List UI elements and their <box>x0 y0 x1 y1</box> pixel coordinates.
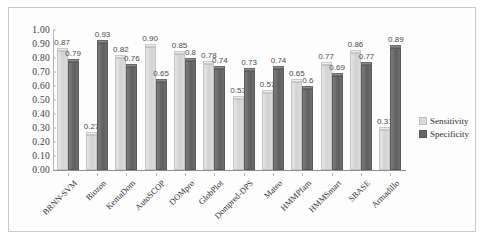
x-axis-tick-label: Armadillo <box>370 178 402 210</box>
bar-specificity[interactable]: 0.89 <box>390 45 401 170</box>
bar-specificity[interactable]: 0.74 <box>273 66 284 170</box>
bar-sensitivity[interactable]: 0.53 <box>233 96 244 170</box>
bar-sensitivity[interactable]: 0.82 <box>115 55 126 170</box>
bar-value-label: 0.8 <box>185 48 196 57</box>
bar-group: 0.310.89 <box>379 30 401 170</box>
bar-sensitivity[interactable]: 0.78 <box>203 61 214 170</box>
x-axis-tick-mark <box>390 173 391 176</box>
legend-item[interactable]: Specificity <box>419 129 481 139</box>
bar-face <box>233 99 244 170</box>
y-axis-tick-label: 1.00 <box>32 25 50 35</box>
bar-face <box>68 62 79 170</box>
x-axis-tick-label: KemaDom <box>104 178 137 211</box>
chart-legend: SensitivitySpecificity <box>419 116 481 142</box>
bar-sensitivity[interactable]: 0.90 <box>145 44 156 170</box>
y-axis-tick-mark <box>53 128 56 129</box>
x-axis-tick-mark <box>273 173 274 176</box>
bar-specificity[interactable]: 0.93 <box>97 40 108 170</box>
y-axis-tick-label: 0.80 <box>32 53 50 63</box>
bar-face <box>273 69 284 170</box>
bar-value-label: 0.73 <box>241 58 257 67</box>
plot-area: 0.870.790.270.930.820.760.900.650.850.80… <box>53 30 405 170</box>
y-axis-tick-label: 0.50 <box>32 95 50 105</box>
bar-value-label: 0.86 <box>348 40 364 49</box>
y-axis-tick-mark <box>53 44 56 45</box>
x-axis-tick-mark <box>332 173 333 176</box>
bar-face <box>203 64 214 170</box>
bar-value-label: 0.74 <box>212 56 228 65</box>
bar-sensitivity[interactable]: 0.57 <box>262 90 273 170</box>
bar-sensitivity[interactable]: 0.27 <box>86 132 97 170</box>
bar-face <box>126 67 137 170</box>
bar-specificity[interactable]: 0.8 <box>185 58 196 170</box>
x-axis-tick-label: SBASE <box>346 178 372 204</box>
bar-specificity[interactable]: 0.65 <box>156 79 167 170</box>
bar-face <box>214 69 225 170</box>
bar-face <box>302 89 313 170</box>
x-axis-tick-label: Mateo <box>262 178 284 200</box>
bar-value-label: 0.69 <box>329 63 345 72</box>
x-axis-tick-mark <box>185 173 186 176</box>
y-axis-tick-mark <box>53 170 56 171</box>
bar-specificity[interactable]: 0.79 <box>68 59 79 170</box>
x-axis-tick-label: BRNN-SVM <box>40 178 79 217</box>
bar-face <box>390 48 401 170</box>
bar-face <box>145 47 156 170</box>
bar-face <box>332 76 343 170</box>
bar-group: 0.870.79 <box>57 30 79 170</box>
bar-group: 0.650.6 <box>291 30 313 170</box>
bar-specificity[interactable]: 0.77 <box>361 62 372 170</box>
bar-face <box>185 61 196 170</box>
bar-specificity[interactable]: 0.6 <box>302 86 313 170</box>
bar-group: 0.860.77 <box>350 30 372 170</box>
bar-group: 0.850.8 <box>174 30 196 170</box>
bar-face <box>291 82 302 170</box>
bar-sensitivity[interactable]: 0.87 <box>57 48 68 170</box>
bar-sensitivity[interactable]: 0.85 <box>174 51 185 170</box>
bar-face <box>97 43 108 170</box>
legend-item[interactable]: Sensitivity <box>419 116 481 126</box>
x-axis-tick-mark <box>126 173 127 176</box>
y-axis: 1.000.900.800.700.600.500.400.300.200.10… <box>9 30 50 171</box>
bar-specificity[interactable]: 0.73 <box>244 68 255 170</box>
x-axis-tick-mark <box>156 173 157 176</box>
bar-face <box>57 51 68 170</box>
bar-face <box>379 130 390 170</box>
bar-group: 0.900.65 <box>145 30 167 170</box>
y-axis-tick-label: 0.70 <box>32 67 50 77</box>
y-axis-tick-mark <box>53 114 56 115</box>
x-axis-tick-mark <box>97 173 98 176</box>
bar-value-label: 0.79 <box>65 49 81 58</box>
y-axis-tick-label: 0.00 <box>32 165 50 175</box>
y-axis-tick-label: 0.90 <box>32 39 50 49</box>
x-axis-tick-mark <box>302 173 303 176</box>
bar-specificity[interactable]: 0.69 <box>332 73 343 170</box>
x-axis-tick-label: DOMpro <box>167 178 196 207</box>
y-axis-tick-label: 0.20 <box>32 137 50 147</box>
bar-sensitivity[interactable]: 0.77 <box>321 62 332 170</box>
y-axis-tick-mark <box>53 30 56 31</box>
bar-group: 0.270.93 <box>86 30 108 170</box>
bar-value-label: 0.89 <box>388 35 404 44</box>
x-axis-tick-label: AutoSCOP <box>133 178 167 212</box>
bar-specificity[interactable]: 0.74 <box>214 66 225 170</box>
legend-swatch-icon <box>419 130 427 138</box>
bar-specificity[interactable]: 0.76 <box>126 64 137 170</box>
y-axis-tick-mark <box>53 156 56 157</box>
bar-value-label: 0.87 <box>54 38 70 47</box>
bar-sensitivity[interactable]: 0.31 <box>379 127 390 170</box>
bar-face <box>156 82 167 170</box>
x-axis-tick-label: GlobPlot <box>197 178 226 207</box>
bar-sensitivity[interactable]: 0.65 <box>291 79 302 170</box>
y-axis-tick-mark <box>53 100 56 101</box>
y-axis-tick-mark <box>53 72 56 73</box>
bar-sensitivity[interactable]: 0.86 <box>350 50 361 170</box>
y-axis-tick-label: 0.10 <box>32 151 50 161</box>
y-axis-tick-label: 0.40 <box>32 109 50 119</box>
bar-face <box>115 58 126 170</box>
bar-value-label: 0.76 <box>124 54 140 63</box>
x-axis-line <box>53 170 406 171</box>
bar-value-label: 0.65 <box>153 69 169 78</box>
x-axis-tick-mark <box>214 173 215 176</box>
bar-group: 0.780.74 <box>203 30 225 170</box>
